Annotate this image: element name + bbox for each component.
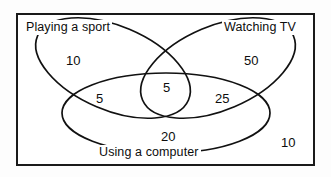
count-all-three: 5 (163, 81, 170, 94)
count-tv-only: 50 (244, 54, 259, 67)
set-label-playing-a-sport: Playing a sport (24, 20, 112, 35)
count-sport-only: 10 (66, 54, 81, 67)
venn-diagram-figure: Playing a sport Watching TV Using a comp… (0, 0, 331, 177)
count-tv-and-computer: 25 (215, 92, 230, 105)
count-sport-and-computer: 5 (96, 92, 103, 105)
set-label-watching-tv: Watching TV (222, 20, 298, 35)
set-label-using-a-computer: Using a computer (97, 145, 201, 160)
count-outside-all-sets: 10 (281, 136, 296, 149)
count-computer-only: 20 (161, 130, 176, 143)
